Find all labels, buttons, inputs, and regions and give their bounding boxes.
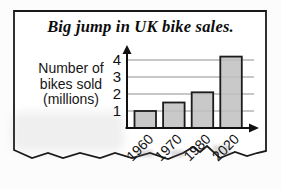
y-axis-arrow-icon: [123, 45, 132, 54]
x-tick-label: 1960: [123, 131, 156, 164]
x-axis-arrow-icon: [249, 124, 259, 133]
x-tick-label: 1980: [180, 131, 213, 164]
y-axis-title-line2: bikes sold: [24, 77, 118, 93]
bar: [163, 103, 185, 129]
bar: [192, 92, 214, 128]
bar: [220, 57, 242, 128]
chart-title: Big jump in UK bike sales.: [16, 17, 265, 37]
y-axis-title: Number of bikes sold (millions): [24, 61, 118, 108]
scanned-chart-figure: 12341960197019802020 Big jump in UK bike…: [0, 0, 281, 190]
y-axis-title-line1: Number of: [24, 61, 118, 77]
y-axis-title-line3: (millions): [24, 92, 118, 108]
x-tick-label: 2020: [209, 131, 242, 164]
x-tick-label: 1970: [152, 131, 185, 164]
bar: [135, 111, 157, 128]
